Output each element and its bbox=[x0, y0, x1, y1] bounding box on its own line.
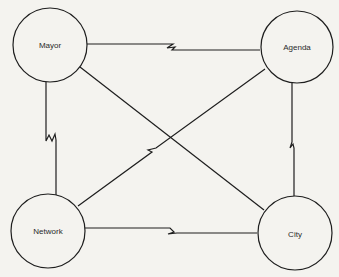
node-label-city: City bbox=[288, 230, 302, 239]
node-label-agenda: Agenda bbox=[283, 43, 311, 52]
edge-mayor-network bbox=[46, 82, 56, 195]
edge-network-city bbox=[85, 228, 257, 234]
node-label-network: Network bbox=[33, 227, 62, 236]
edge-mayor-agenda bbox=[87, 44, 260, 50]
edge-agenda-city bbox=[290, 83, 294, 196]
diagram-canvas: Mayor Agenda Network City bbox=[0, 0, 339, 277]
node-label-mayor: Mayor bbox=[39, 41, 61, 50]
edge-mayor-city bbox=[80, 67, 264, 210]
